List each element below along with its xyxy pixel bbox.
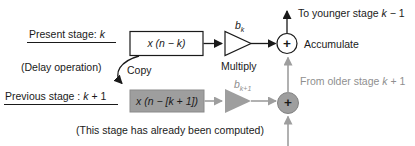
present-delay-box-label: x (n − k) (146, 37, 185, 49)
lattice-stage-diagram: Present stage: k (Delay operation) Previ… (0, 0, 415, 146)
diagram-canvas: Present stage: k (Delay operation) Previ… (0, 0, 415, 146)
multiply-label: Multiply (221, 60, 257, 72)
gain-label-bk: bk (235, 19, 245, 33)
multiplier-triangle (225, 32, 251, 56)
computed-note: (This stage has already been computed) (76, 124, 264, 136)
gray-adder-plus-sign: + (284, 95, 292, 110)
copy-label: Copy (127, 64, 152, 76)
gain-label-bk1: bk+1 (234, 78, 251, 92)
present-stage-label: Present stage: k (29, 28, 106, 40)
delay-operation-note: (Delay operation) (21, 61, 102, 73)
adder-plus-sign: + (283, 36, 291, 51)
from-older-stage-label: From older stage k + 1 (300, 75, 406, 87)
previous-stage-label: Previous stage : k + 1 (5, 90, 106, 102)
previous-delay-box-label: x (n − [k + 1]) (135, 95, 198, 107)
to-younger-stage-label: To younger stage k − 1 (298, 7, 405, 19)
accumulate-label: Accumulate (304, 38, 359, 50)
gray-multiplier-triangle (225, 89, 251, 113)
